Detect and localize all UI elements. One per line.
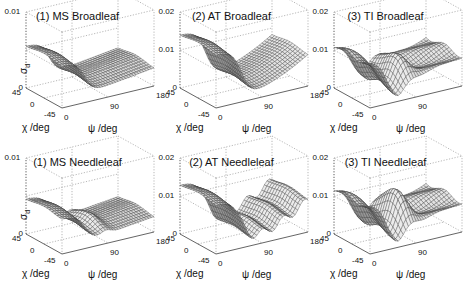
surface-mesh (334, 183, 462, 241)
figure: (1) MS Broadleaf 00.01σd450-45χ /deg0901… (0, 0, 464, 293)
z-tick-label: 0.02 (159, 154, 175, 162)
chi-tick-label: 0 (184, 247, 188, 255)
psi-tick-label: 0 (64, 114, 68, 122)
psi-axis-label: ψ /deg (396, 123, 425, 134)
panel-title: (2) AT Broadleaf (154, 10, 309, 22)
z-tick-label: 0.01 (313, 192, 329, 200)
chi-axis-label: χ /deg (176, 122, 204, 133)
psi-axis-label: ψ /deg (396, 269, 425, 280)
psi-tick-label: 0 (64, 260, 68, 268)
z-tick-label: 0.01 (159, 192, 175, 200)
chi-tick-label: 45 (166, 235, 175, 243)
chi-axis-label: χ /deg (176, 268, 204, 279)
z-tick-label: 0.02 (159, 8, 175, 16)
surface-plot-panel-3: (3) TI Broadleaf 00.010.02450-45χ /deg09… (308, 0, 463, 146)
psi-axis-label: ψ /deg (88, 123, 117, 134)
surface-plot-panel-2: (2) AT Broadleaf 00.010.02450-45χ /deg09… (154, 0, 309, 146)
chi-tick-label: -45 (352, 257, 364, 265)
z-tick-label: 0.02 (313, 8, 329, 16)
chi-axis-label: χ /deg (330, 268, 358, 279)
z-axis-label: σd (18, 210, 31, 220)
psi-axis-label: ψ /deg (242, 269, 271, 280)
psi-tick-label: 90 (418, 249, 427, 257)
chi-tick-label: -45 (44, 111, 56, 119)
psi-tick-label: 90 (264, 249, 273, 257)
surface-plot-panel-4: (1) MS Needleleaf 00.01σd450-45χ /deg090… (0, 146, 155, 292)
z-tick-label: 0.02 (313, 154, 329, 162)
chi-tick-label: 45 (12, 89, 21, 97)
psi-tick-label: 0 (218, 114, 222, 122)
chi-tick-label: 0 (30, 101, 34, 109)
chi-tick-label: -45 (198, 111, 210, 119)
chi-tick-label: -45 (352, 111, 364, 119)
panel-title: (1) MS Broadleaf (0, 10, 155, 22)
psi-tick-label: 90 (264, 103, 273, 111)
surface-mesh (26, 45, 154, 88)
z-tick-label: 0.01 (159, 46, 175, 54)
psi-tick-label: 0 (218, 260, 222, 268)
z-tick-label: 0.01 (5, 8, 21, 16)
psi-tick-label: 90 (418, 103, 427, 111)
chi-tick-label: -45 (198, 257, 210, 265)
chi-tick-label: 45 (320, 235, 329, 243)
chi-axis-label: χ /deg (22, 268, 50, 279)
chi-axis-label: χ /deg (330, 122, 358, 133)
panel-title: (3) TI Broadleaf (308, 10, 463, 22)
panel-title: (1) MS Needleleaf (0, 156, 155, 168)
surface-plot-panel-6: (3) TI Needleleaf 00.010.02450-45χ /deg0… (308, 146, 463, 292)
psi-tick-label: 90 (110, 103, 119, 111)
chi-tick-label: 0 (184, 101, 188, 109)
chi-tick-label: -45 (44, 257, 56, 265)
surface-mesh (180, 34, 308, 89)
panel-title: (3) TI Needleleaf (308, 156, 463, 168)
chi-tick-label: 45 (166, 89, 175, 97)
z-axis-label: σd (18, 64, 31, 74)
surface-mesh (334, 37, 462, 95)
psi-tick-label: 90 (110, 249, 119, 257)
chi-tick-label: 0 (338, 101, 342, 109)
surface-plot-panel-5: (2) AT Needleleaf 00.010.02450-45χ /deg0… (154, 146, 309, 292)
chi-tick-label: 0 (338, 247, 342, 255)
psi-tick-label: 0 (372, 114, 376, 122)
psi-tick-label: 0 (372, 260, 376, 268)
chi-axis-label: χ /deg (22, 122, 50, 133)
surface-plot-panel-1: (1) MS Broadleaf 00.01σd450-45χ /deg0901… (0, 0, 155, 146)
chi-tick-label: 45 (12, 235, 21, 243)
z-tick-label: 0.01 (313, 46, 329, 54)
chi-tick-label: 45 (320, 89, 329, 97)
z-tick-label: 0.01 (5, 154, 21, 162)
panel-title: (2) AT Needleleaf (154, 156, 309, 168)
psi-axis-label: ψ /deg (88, 269, 117, 280)
chi-tick-label: 0 (30, 247, 34, 255)
psi-axis-label: ψ /deg (242, 123, 271, 134)
